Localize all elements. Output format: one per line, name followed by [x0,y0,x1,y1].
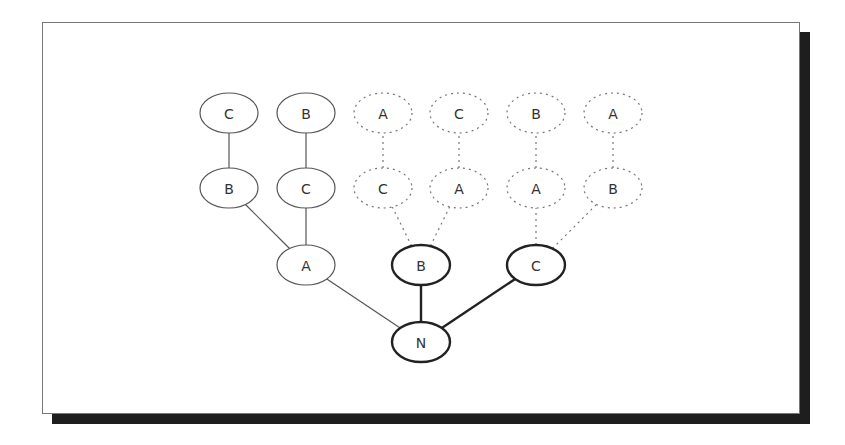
tree-diagram: NABCBCCAABCBACBA [0,0,845,445]
tree-node: B [200,168,258,208]
edges-layer [229,133,613,328]
node-label: C [378,181,388,197]
tree-node: A [507,168,565,208]
node-label: C [531,258,541,274]
tree-node: C [277,168,335,208]
node-label: C [224,106,234,122]
tree-edge [392,207,411,246]
tree-node: C [507,245,565,285]
tree-edge [552,204,596,248]
tree-node: C [200,93,258,133]
tree-node: B [277,93,335,133]
tree-node: A [354,93,412,133]
nodes-layer: NABCBCCAABCBACBA [200,93,642,362]
tree-edge [327,279,400,328]
tree-node: C [430,93,488,133]
node-label: B [224,181,234,197]
tree-node: C [354,168,412,208]
tree-node: A [430,168,488,208]
node-label: B [301,106,311,122]
tree-edge [442,279,515,328]
node-label: A [531,181,541,197]
node-label: C [454,106,464,122]
node-label: A [608,106,618,122]
tree-node: B [392,245,450,285]
node-label: C [301,181,311,197]
node-label: B [531,106,541,122]
root-node: N [392,322,450,362]
node-label: A [301,258,311,274]
node-label: A [454,181,464,197]
node-label: B [416,258,426,274]
node-label: A [378,106,388,122]
tree-edge [430,207,449,246]
tree-node: A [277,245,335,285]
node-label: B [608,181,618,197]
tree-node: B [584,168,642,208]
tree-edge [245,204,289,248]
node-label: N [416,335,426,351]
tree-node: A [584,93,642,133]
tree-node: B [507,93,565,133]
